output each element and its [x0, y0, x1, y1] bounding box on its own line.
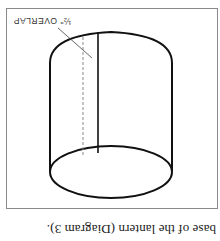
- overlap-label: ½" OVERLAP: [13, 16, 71, 26]
- cylinder-body-outline: [50, 32, 172, 171]
- rotated-diagram-page: base of the lantern (Diagram 3). ½" OVER…: [0, 0, 220, 241]
- cylinder-top-ellipse: [50, 146, 172, 198]
- cylinder-diagram: ½" OVERLAP: [0, 0, 220, 241]
